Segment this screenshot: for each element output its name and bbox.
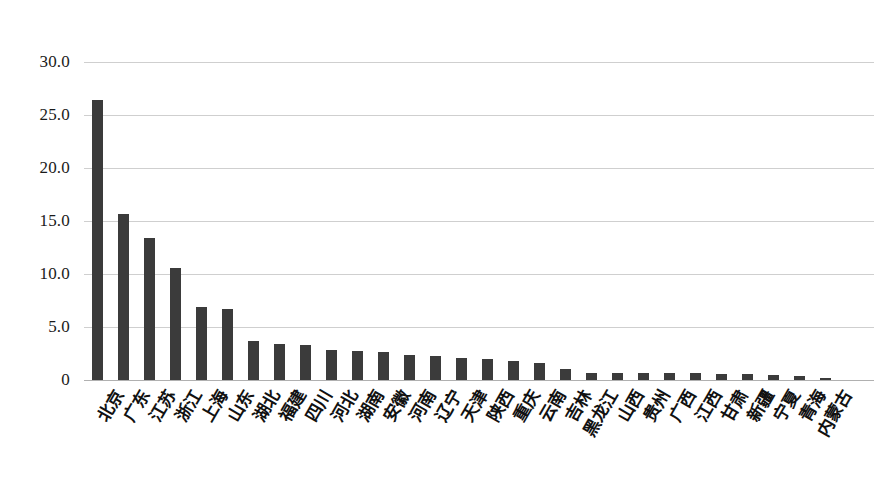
bar (482, 359, 493, 380)
bar (794, 376, 805, 380)
bar (742, 374, 753, 380)
bar (274, 344, 285, 380)
bar (534, 363, 545, 380)
bar (248, 341, 259, 380)
bar (456, 358, 467, 380)
y-axis-tick-label: 20.0 (39, 158, 70, 178)
bar (768, 375, 779, 380)
bar (560, 369, 571, 380)
y-axis-tick-label: 10.0 (39, 264, 70, 284)
bar (118, 214, 129, 380)
bar (352, 351, 363, 380)
y-axis: 30.025.020.015.010.05.00 (0, 62, 78, 380)
bar (378, 352, 389, 380)
bar (690, 373, 701, 380)
bar (222, 309, 233, 380)
bar (716, 374, 727, 380)
bar-series (84, 62, 874, 380)
y-axis-tick-label: 0 (61, 370, 70, 390)
bar (612, 373, 623, 380)
gridline (84, 380, 874, 381)
plot-area (84, 62, 874, 380)
bar (196, 307, 207, 380)
y-axis-tick-label: 25.0 (39, 105, 70, 125)
y-axis-tick-label: 30.0 (39, 52, 70, 72)
bar (586, 373, 597, 380)
y-axis-tick-label: 15.0 (39, 211, 70, 231)
chart-page: 30.025.020.015.010.05.00 北京广东江苏浙江上海山东湖北福… (0, 0, 892, 493)
bar (326, 350, 337, 380)
bar (92, 100, 103, 380)
bar (300, 345, 311, 380)
bar (430, 356, 441, 380)
bar (638, 373, 649, 380)
bar (508, 361, 519, 380)
bar (144, 238, 155, 380)
x-axis: 北京广东江苏浙江上海山东湖北福建四川河北湖南安徽河南辽宁天津陕西重庆云南吉林黑龙… (84, 384, 874, 493)
bar (404, 355, 415, 380)
y-axis-tick-label: 5.0 (48, 317, 70, 337)
bar (170, 268, 181, 380)
bar (664, 373, 675, 380)
bar (820, 378, 831, 380)
